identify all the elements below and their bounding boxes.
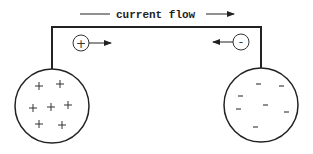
negative-carrier: - (213, 34, 249, 50)
negative-sphere-circle (224, 68, 298, 142)
current-flow-label-group: current flow (80, 9, 234, 21)
positive-sphere-circle (15, 69, 89, 143)
current-flow-diagram: current flow + - (0, 0, 313, 154)
negative-carrier-symbol: - (239, 35, 243, 49)
negative-sphere (224, 68, 298, 142)
positive-carrier-symbol: + (76, 37, 86, 51)
positive-sphere (15, 69, 89, 143)
positive-carrier: + (73, 35, 111, 51)
current-flow-label: current flow (116, 9, 196, 21)
